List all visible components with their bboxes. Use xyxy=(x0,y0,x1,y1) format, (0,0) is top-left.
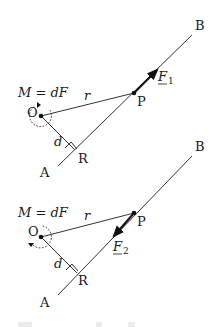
force-arrow-f2 xyxy=(114,213,134,236)
line-of-action xyxy=(58,35,192,166)
force-label-sub: 1 xyxy=(168,76,174,86)
moment-equation: M = dF xyxy=(17,85,69,100)
force-label-sub: 2 xyxy=(123,246,129,256)
label-p: P xyxy=(137,94,146,109)
label-a: A xyxy=(39,165,50,180)
label-r-vector: r xyxy=(84,208,91,223)
moment-equation: M = dF xyxy=(17,205,69,220)
label-f2: F 2 xyxy=(112,239,129,256)
label-f1: F 1 xyxy=(157,69,174,86)
label-d: d xyxy=(54,134,62,149)
panel-top: B P O R A M = dF r d F 1 xyxy=(17,18,205,180)
force-label-main: F xyxy=(157,69,168,84)
label-r-point: R xyxy=(78,273,89,288)
point-p-dot xyxy=(132,211,137,216)
label-o: O xyxy=(27,105,38,120)
label-b: B xyxy=(195,139,205,154)
point-p-dot xyxy=(132,91,137,96)
faint-caption-fragment xyxy=(18,322,32,327)
force-label-main: F xyxy=(112,239,123,254)
label-a: A xyxy=(39,295,50,310)
label-b: B xyxy=(195,18,205,33)
force-arrow-f1 xyxy=(134,70,157,93)
point-o-dot xyxy=(39,235,44,240)
label-d: d xyxy=(54,256,62,271)
faint-caption-fragment xyxy=(128,322,135,327)
label-r-point: R xyxy=(78,151,89,166)
faint-caption-fragment xyxy=(96,322,102,327)
label-r-vector: r xyxy=(84,88,91,103)
moment-diagram: B P O R A M = dF r d F 1 B P O R A M = d… xyxy=(0,0,222,327)
label-o: O xyxy=(28,224,39,239)
point-o-dot xyxy=(39,114,44,119)
label-p: P xyxy=(137,214,146,229)
